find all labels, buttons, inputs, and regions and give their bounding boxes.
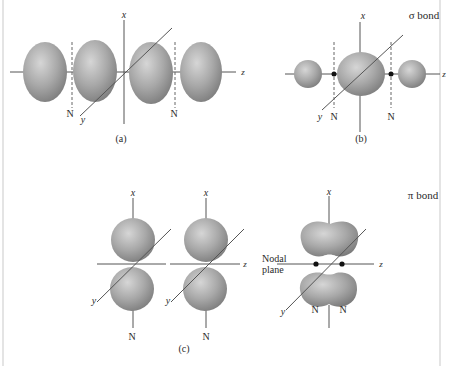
p-orbital-lobe-upper xyxy=(111,218,155,262)
sigma-bond-title: σ bond xyxy=(409,9,440,21)
x-axis-label: x xyxy=(360,10,366,21)
z-axis-label: z xyxy=(240,67,245,77)
panel-b: x z y N N (b) σ bond xyxy=(285,9,446,145)
p-orbital-lobe-upper xyxy=(184,218,228,262)
panel-a: x z y N N (a) xyxy=(10,9,245,145)
orbital-lobe xyxy=(23,42,67,102)
node-label: N xyxy=(330,111,337,122)
y-axis-label: y xyxy=(280,306,286,317)
nodal-plane-label: plane xyxy=(262,264,284,275)
node-dot xyxy=(339,261,344,266)
pi-bond-title: π bond xyxy=(408,189,439,201)
z-axis-label: z xyxy=(441,69,446,79)
node-label: N xyxy=(387,111,394,122)
orbital-lobe xyxy=(129,42,173,104)
z-axis-label: z xyxy=(378,259,383,269)
node-label: N xyxy=(202,331,209,342)
node-dot xyxy=(389,72,394,77)
node-label: N xyxy=(311,304,318,315)
y-axis-label: y xyxy=(80,114,86,125)
node-label: N xyxy=(339,304,346,315)
orbital-lobe xyxy=(73,40,117,102)
z-axis-label: z xyxy=(242,259,247,269)
p-orbital-lobe-lower xyxy=(183,267,227,311)
node-label: N xyxy=(128,331,135,342)
nodal-plane-label: Nodal xyxy=(262,253,287,264)
caption-b: (b) xyxy=(355,133,367,145)
p-orbital-lobe-lower xyxy=(110,267,154,311)
x-axis-label: x xyxy=(326,186,332,197)
orbital-lobe xyxy=(180,42,222,102)
node-label: N xyxy=(170,108,177,119)
y-axis-label: y xyxy=(91,295,97,306)
y-axis-label: y xyxy=(165,295,171,306)
x-axis-label: x xyxy=(203,187,209,198)
orbital-lobe-small xyxy=(294,60,322,88)
node-dot xyxy=(332,72,337,77)
orbital-lobe-small xyxy=(398,60,426,88)
panel-c-p-orbitals: x y N x y z N (c) xyxy=(91,187,247,355)
panel-c-pi-bond: x z y N N Nodal plane π bond xyxy=(262,186,439,328)
y-axis-label: y xyxy=(317,111,323,122)
x-axis-label: x xyxy=(121,9,127,20)
pi-bond-lobe-lower xyxy=(300,273,357,307)
caption-a: (a) xyxy=(115,133,126,145)
x-axis-label: x xyxy=(130,187,136,198)
node-label: N xyxy=(66,108,73,119)
pi-bond-lobe-upper xyxy=(301,221,359,256)
orbital-diagram: x z y N N (a) x z y N N (b) σ bond x y xyxy=(0,0,455,366)
caption-c: (c) xyxy=(178,343,189,355)
node-dot xyxy=(313,261,318,266)
